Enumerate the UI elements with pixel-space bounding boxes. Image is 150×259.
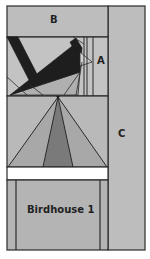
section-birdhouse-body bbox=[7, 180, 108, 250]
label-birdhouse: Birdhouse 1 bbox=[27, 205, 94, 215]
label-c: C bbox=[118, 129, 125, 139]
white-band bbox=[7, 167, 108, 180]
section-roof bbox=[7, 96, 108, 167]
section-a-bird bbox=[7, 37, 108, 96]
pattern-svg bbox=[0, 0, 150, 259]
section-c bbox=[108, 6, 145, 250]
quilt-pattern-diagram: B A C Birdhouse 1 bbox=[0, 0, 150, 259]
label-a: A bbox=[97, 56, 105, 66]
label-b: B bbox=[50, 15, 58, 25]
